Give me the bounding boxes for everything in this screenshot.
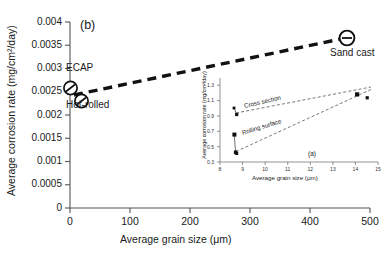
point-label-sand-cast: Sand cast [330,47,374,58]
inset-x-tick-label: 13 [326,166,340,172]
inset-y-tick-label: 0.7 [197,128,214,134]
main-y-ticks [65,22,70,208]
main-x-tick-label: 200 [170,215,210,227]
main-y-tick-label: 0 [18,202,62,213]
inset-points-rolling-surface [232,133,238,155]
main-y-tick-label: 0.0015 [18,132,62,143]
inset-x-tick-label: 14 [348,166,362,172]
inset-x-tick-label: 11 [281,166,295,172]
main-y-tick-label: 0.0025 [18,85,62,96]
inset-y-tick-label: 0.3 [197,159,214,165]
inset-x-tick-label: 9 [236,166,250,172]
point-label-ecap: ECAP [66,62,93,73]
main-y-tick-label: 0.0035 [18,39,62,50]
inset-x-tick-label: 10 [258,166,272,172]
inset-plot-panel-a: Average corrosion rate (mg/cm²/day) Aver… [196,72,386,187]
inset-y-tick-label: 1.1 [197,97,214,103]
panel-a-label: (a) [308,150,316,157]
main-y-tick-label: 0.004 [18,16,62,27]
point-label-hot-rolled: Hot-rolled [66,99,109,110]
figure-corrosion-rate-vs-grain-size: Average corrosion rate (mg/cm²/day) Aver… [0,0,388,259]
main-y-tick-label: 0.0005 [18,178,62,189]
main-x-ticks [70,208,370,213]
main-x-tick-label: 300 [230,215,270,227]
main-x-tick-label: 400 [290,215,330,227]
inset-x-tick-label: 15 [371,166,385,172]
main-point-ecap [64,81,77,94]
main-point-sand-cast [340,31,355,46]
inset-x-axis-label: Average grain size (μm) [252,174,318,181]
panel-b-label: (b) [80,18,95,32]
main-y-tick-label: 0.002 [18,109,62,120]
main-x-tick-label: 0 [50,215,90,227]
inset-y-tick-label: 1.3 [197,82,214,88]
main-x-tick-label: 500 [350,215,388,227]
inset-x-tick-label: 8 [213,166,227,172]
inset-x-ticks [220,162,378,165]
inset-x-tick-label: 12 [303,166,317,172]
main-y-axis-label: Average corrosion rate (mg/cm²/day) [5,26,17,196]
inset-y-ticks [217,85,220,162]
main-x-axis-label: Average grain size (μm) [120,233,231,245]
inset-y-tick-label: 0.5 [197,144,214,150]
inset-connector-rolling [234,135,235,152]
inset-y-tick-label: 0.9 [197,113,214,119]
main-x-tick-label: 100 [110,215,150,227]
main-y-tick-label: 0.001 [18,155,62,166]
main-y-tick-label: 0.003 [18,62,62,73]
